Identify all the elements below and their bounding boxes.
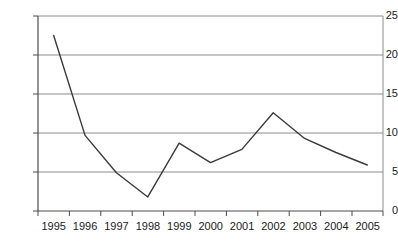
y-axis-label-20: 20 — [368, 49, 398, 60]
x-axis-label-2005: 2005 — [348, 221, 388, 232]
x-axis-ticks — [38, 211, 383, 216]
y-axis-ticks — [33, 16, 38, 211]
plot-background — [38, 16, 383, 211]
line-chart: 25 20 15 10 5 0 1995 1996 1997 1998 1999… — [0, 0, 398, 245]
y-axis-label-5: 5 — [368, 166, 398, 177]
y-axis-label-25: 25 — [368, 10, 398, 21]
y-axis-label-10: 10 — [368, 127, 398, 138]
y-axis-label-0: 0 — [368, 205, 398, 216]
chart-plot-area — [0, 0, 398, 245]
y-axis-label-15: 15 — [368, 88, 398, 99]
